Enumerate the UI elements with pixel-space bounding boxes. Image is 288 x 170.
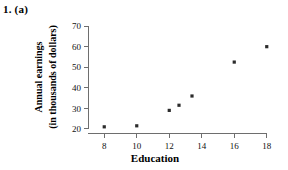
y-tick-label: 30 bbox=[72, 104, 82, 114]
scatter-plot: 203040506070 81012141618 bbox=[0, 0, 288, 170]
data-points-layer bbox=[103, 45, 269, 128]
x-tick-label: 14 bbox=[197, 141, 207, 151]
x-tick-label: 8 bbox=[102, 141, 107, 151]
x-tick-label: 12 bbox=[165, 141, 174, 151]
y-tick-label: 70 bbox=[72, 21, 82, 31]
x-axis: 81012141618 bbox=[88, 133, 272, 151]
data-point bbox=[177, 104, 180, 107]
data-point bbox=[265, 45, 268, 48]
y-axis: 203040506070 bbox=[72, 21, 88, 134]
x-tick-label: 10 bbox=[132, 141, 142, 151]
data-point bbox=[103, 125, 106, 128]
y-tick-label: 20 bbox=[72, 124, 82, 134]
data-point bbox=[135, 124, 138, 127]
data-point bbox=[233, 60, 236, 63]
y-tick-label: 50 bbox=[72, 62, 82, 72]
y-tick-label: 60 bbox=[72, 42, 82, 52]
x-tick-label: 16 bbox=[230, 141, 240, 151]
data-point bbox=[168, 109, 171, 112]
x-tick-label: 18 bbox=[262, 141, 272, 151]
y-tick-label: 40 bbox=[72, 83, 82, 93]
figure-container: 1. (a) Annual earnings (in thousands of … bbox=[0, 0, 288, 170]
data-point bbox=[190, 94, 193, 97]
